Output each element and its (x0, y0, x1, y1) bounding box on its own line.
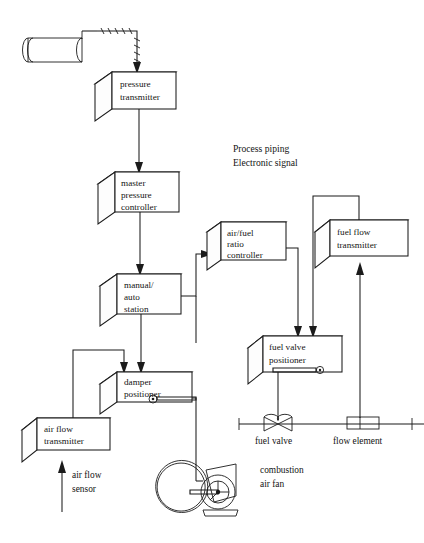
annotation-flow-element: flow element (333, 436, 383, 446)
block-label-line: controller (227, 250, 263, 260)
block-label-line: fuel valve (269, 342, 305, 352)
block-label-line: air flow (44, 424, 73, 434)
annotation-fuel-valve: fuel valve (255, 436, 292, 446)
block-label-line: master (121, 178, 146, 188)
block-label-line: damper (124, 377, 152, 387)
block-label-line: pressure (120, 79, 151, 89)
annotation-combustion-air-fan: combustion (260, 465, 304, 475)
block-label-line: station (124, 304, 149, 314)
block-label-line: fuel flow (337, 227, 371, 237)
block-label-line: pressure (121, 190, 152, 200)
block-label-line: transmitter (120, 92, 160, 102)
block-label-line: transmitter (337, 240, 377, 250)
block-label-line: positioner (269, 355, 306, 365)
annotation-air-flow-sensor: sensor (72, 484, 97, 494)
block-label-line: air/fuel (227, 228, 254, 238)
annotation-air-flow-sensor: air flow (72, 470, 102, 480)
combustion-control-diagram: pressure transmitter master pressure con… (0, 0, 424, 543)
block-label-line: manual/ (124, 280, 154, 290)
legend-process-piping: Process piping (233, 143, 289, 154)
annotation-combustion-air-fan: air fan (260, 479, 285, 489)
block-label-line: controller (121, 202, 157, 212)
block-label-line: ratio (227, 239, 244, 249)
block-label-line: auto (124, 292, 140, 302)
block-label-line: transmitter (44, 436, 84, 446)
block-label-line: positioner (124, 389, 161, 399)
legend-electronic-signal: Electronic signal (233, 157, 298, 168)
